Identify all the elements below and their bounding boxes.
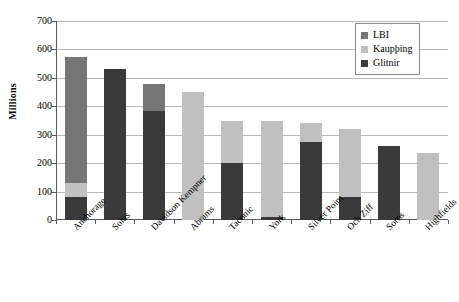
bar-group[interactable] <box>104 21 126 220</box>
legend: LBIKaupþingGlitnir <box>355 23 420 75</box>
y-axis-tick-label: 400 <box>12 101 52 111</box>
legend-item-label: LBI <box>373 30 389 40</box>
x-axis-tick-mark <box>330 220 331 224</box>
x-axis-tick-mark <box>95 220 96 224</box>
x-axis-tick-mark <box>291 220 292 224</box>
x-axis-tick-mark <box>409 220 410 224</box>
bar-group[interactable] <box>65 21 87 220</box>
bar-group[interactable] <box>300 21 322 220</box>
bar-segment[interactable] <box>143 111 165 220</box>
bar-segment[interactable] <box>378 146 400 220</box>
legend-item-label: Glitnir <box>373 58 400 68</box>
legend-swatch-icon <box>361 32 368 39</box>
legend-swatch-icon <box>361 46 368 53</box>
bar-stack <box>104 69 126 220</box>
bar-stack <box>261 121 283 220</box>
legend-item-label: Kaupþing <box>373 44 412 54</box>
x-axis-tick-mark <box>213 220 214 224</box>
y-axis-tick-label: 300 <box>12 130 52 140</box>
legend-item[interactable]: Glitnir <box>361 56 412 70</box>
bar-segment[interactable] <box>65 183 87 197</box>
x-axis-tick-mark <box>56 220 57 224</box>
x-axis-tick-mark <box>252 220 253 224</box>
bar-segment[interactable] <box>300 123 322 141</box>
x-axis-tick-mark <box>174 220 175 224</box>
bar-stack <box>143 84 165 220</box>
y-axis-tick-label: 500 <box>12 73 52 83</box>
bar-stack <box>221 121 243 220</box>
y-axis-tick-label: 100 <box>12 187 52 197</box>
y-axis-tick-label: 200 <box>12 158 52 168</box>
bar-segment[interactable] <box>221 121 243 164</box>
legend-swatch-icon <box>361 60 368 67</box>
bar-segment[interactable] <box>65 57 87 184</box>
bar-stack <box>378 146 400 220</box>
bar-group[interactable] <box>261 21 283 220</box>
bar-segment[interactable] <box>261 121 283 218</box>
bar-group[interactable] <box>417 21 439 220</box>
x-axis-tick-mark <box>370 220 371 224</box>
bar-stack <box>339 129 361 220</box>
bar-group[interactable] <box>221 21 243 220</box>
legend-item[interactable]: LBI <box>361 28 412 42</box>
legend-rows: LBIKaupþingGlitnir <box>361 28 412 70</box>
bar-segment[interactable] <box>104 69 126 220</box>
bar-segment[interactable] <box>339 129 361 197</box>
bar-stack <box>300 123 322 220</box>
x-axis-tick-mark <box>448 220 449 224</box>
bar-group[interactable] <box>143 21 165 220</box>
bar-segment[interactable] <box>143 84 165 111</box>
bar-segment[interactable] <box>300 142 322 220</box>
y-axis-tick-label: 700 <box>12 16 52 26</box>
y-axis-tick-label: 0 <box>12 215 52 225</box>
legend-item[interactable]: Kaupþing <box>361 42 412 56</box>
y-axis-tick-label: 600 <box>12 44 52 54</box>
bar-stack <box>65 57 87 220</box>
x-axis-tick-mark <box>134 220 135 224</box>
